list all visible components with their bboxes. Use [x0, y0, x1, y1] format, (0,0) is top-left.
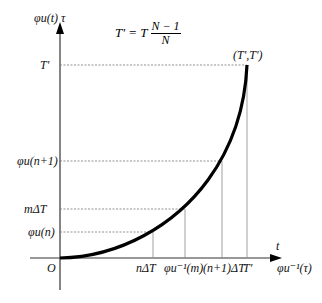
y-tick-phi-n-plus-1: φu(n+1) — [17, 155, 58, 167]
formula-numerator: N − 1 — [151, 20, 181, 34]
y-axis-label: φu(t) τ — [34, 12, 65, 24]
y-tick-m-delta-T: mΔT — [24, 203, 46, 215]
phi-curve — [60, 65, 247, 258]
x-tick-phi-inv-m: φu⁻¹(m) — [164, 262, 203, 274]
x-tick-n-delta-T: nΔT — [136, 262, 156, 274]
x-tick-T-prime: T' — [243, 262, 252, 274]
formula: T' = T N − 1 N — [115, 20, 181, 46]
x-tick-n-plus-1-delta-T: (n+1)ΔT — [203, 262, 245, 274]
endpoint-label: (T',T') — [233, 49, 262, 61]
origin-label: O — [47, 262, 56, 274]
x-axis-label-t: t — [276, 240, 279, 252]
x-axis-label: φu⁻¹(τ) — [277, 262, 312, 274]
formula-denominator: N — [162, 34, 170, 47]
formula-fraction: N − 1 N — [151, 20, 181, 46]
vertical-guides — [153, 65, 247, 258]
formula-lhs: T' = T — [115, 25, 148, 41]
y-tick-T-prime: T' — [40, 59, 49, 71]
y-tick-phi-n: φu(n) — [28, 226, 55, 238]
horizontal-guides — [60, 65, 247, 232]
